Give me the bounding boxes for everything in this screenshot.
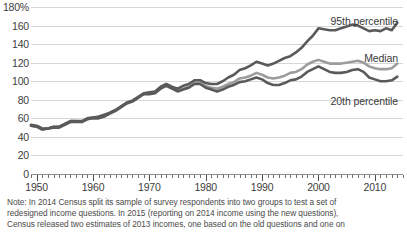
x-axis-label-2000: 2000 <box>307 182 330 193</box>
x-axis-tick-1968 <box>138 175 139 178</box>
x-axis-tick-1961 <box>99 175 100 178</box>
chart-page: 180%160140120100806040200 95th percentil… <box>0 0 407 238</box>
y-axis-label-60: 60 <box>0 113 29 123</box>
x-axis-tick-1949 <box>31 175 32 178</box>
x-axis-tick-1962 <box>104 175 105 178</box>
x-axis-tick-1985 <box>234 175 235 178</box>
x-axis-tick-1959 <box>87 175 88 178</box>
x-axis-tick-1972 <box>161 175 162 178</box>
x-axis-tick-1997 <box>302 175 303 178</box>
x-axis-label-2010: 2010 <box>364 182 387 193</box>
x-axis-tick-1975 <box>178 175 179 178</box>
series-line-95th-percentile <box>31 23 397 129</box>
x-axis-tick-2013 <box>392 175 393 178</box>
x-axis-tick-2007 <box>358 175 359 178</box>
x-axis-tick-1992 <box>273 175 274 178</box>
x-axis-tick-1971 <box>155 175 156 178</box>
x-axis-tick-1981 <box>211 175 212 178</box>
x-axis-tick-1988 <box>251 175 252 178</box>
x-axis-label-1990: 1990 <box>251 182 274 193</box>
x-axis-tick-1953 <box>54 175 55 178</box>
y-axis-label-160: 160 <box>0 21 29 31</box>
plot-area: 95th percentile Median 20th percentile <box>31 7 403 174</box>
x-axis-tick-1952 <box>48 175 49 178</box>
chart-footnote: Note: In 2014 Census split its sample of… <box>7 197 402 229</box>
x-axis-tick-1957 <box>76 175 77 178</box>
x-axis-tick-1955 <box>65 175 66 178</box>
x-axis-tick-1978 <box>194 175 195 178</box>
x-axis-tick-1996 <box>296 175 297 178</box>
y-axis: 180%160140120100806040200 <box>0 0 29 196</box>
y-axis-label-180: 180% <box>0 2 29 12</box>
x-axis-tick-2003 <box>335 175 336 178</box>
x-axis-tick-1994 <box>285 175 286 178</box>
x-axis-tick-2009 <box>369 175 370 178</box>
x-axis-tick-2006 <box>352 175 353 178</box>
y-axis-label-20: 20 <box>0 150 29 160</box>
x-axis-label-1970: 1970 <box>138 182 161 193</box>
income-percentile-line-chart: 180%160140120100806040200 95th percentil… <box>0 0 407 196</box>
x-axis-tick-1966 <box>127 175 128 178</box>
x-axis-tick-1991 <box>268 175 269 178</box>
footnote-line-2: redesigned income questions. In 2015 (re… <box>7 208 402 219</box>
x-axis-tick-1951 <box>42 175 43 178</box>
x-axis-tick-2002 <box>330 175 331 178</box>
x-axis-tick-2011 <box>380 175 381 178</box>
footnote-line-1: Note: In 2014 Census split its sample of… <box>7 197 402 208</box>
x-axis-tick-1983 <box>223 175 224 178</box>
series-label-20th-percentile: 20th percentile <box>331 96 398 107</box>
x-axis-label-1950: 1950 <box>25 182 48 193</box>
x-axis-tick-1986 <box>240 175 241 178</box>
x-axis: 1950196019701980199020002010 <box>31 174 403 196</box>
x-axis-tick-1958 <box>82 175 83 178</box>
x-axis-tick-2008 <box>364 175 365 178</box>
series-lines <box>31 7 403 174</box>
series-label-median: Median <box>364 53 398 64</box>
y-axis-label-140: 140 <box>0 39 29 49</box>
y-axis-label-40: 40 <box>0 132 29 142</box>
x-axis-tick-1977 <box>189 175 190 178</box>
x-axis-tick-2015 <box>403 175 404 178</box>
x-axis-tick-1963 <box>110 175 111 178</box>
x-axis-tick-1989 <box>256 175 257 178</box>
y-axis-label-0: 0 <box>0 169 29 179</box>
x-axis-tick-1964 <box>116 175 117 178</box>
x-axis-tick-1982 <box>217 175 218 178</box>
x-axis-tick-1995 <box>290 175 291 178</box>
x-axis-tick-1974 <box>172 175 173 178</box>
x-axis-tick-1969 <box>144 175 145 178</box>
x-axis-tick-1979 <box>200 175 201 178</box>
x-axis-tick-2014 <box>397 175 398 178</box>
y-axis-label-100: 100 <box>0 76 29 86</box>
x-axis-tick-1967 <box>132 175 133 178</box>
x-axis-label-1980: 1980 <box>194 182 217 193</box>
x-axis-tick-2004 <box>341 175 342 178</box>
x-axis-tick-1973 <box>166 175 167 178</box>
x-axis-tick-1993 <box>279 175 280 178</box>
x-axis-tick-1998 <box>307 175 308 178</box>
x-axis-tick-1965 <box>121 175 122 178</box>
footnote-line-3: Census released two estimates of 2013 in… <box>7 219 402 230</box>
x-axis-tick-1954 <box>59 175 60 178</box>
x-axis-tick-2001 <box>324 175 325 178</box>
x-axis-tick-1984 <box>228 175 229 178</box>
x-axis-tick-1987 <box>245 175 246 178</box>
x-axis-label-1960: 1960 <box>82 182 105 193</box>
x-axis-tick-1999 <box>313 175 314 178</box>
y-axis-label-80: 80 <box>0 95 29 105</box>
x-axis-tick-1956 <box>70 175 71 178</box>
x-axis-tick-2012 <box>386 175 387 178</box>
y-axis-label-120: 120 <box>0 58 29 68</box>
series-label-95th-percentile: 95th percentile <box>331 16 398 27</box>
x-axis-tick-2005 <box>347 175 348 178</box>
x-axis-tick-1976 <box>183 175 184 178</box>
